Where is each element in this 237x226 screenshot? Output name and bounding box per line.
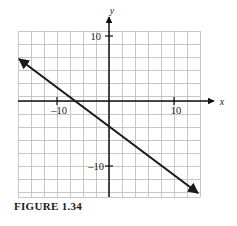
figure-caption: FIGURE 1.34 xyxy=(14,200,82,212)
y-tick-label-positive: 10 xyxy=(91,31,102,42)
coordinate-plot: 10 –10 –10 10 x y xyxy=(0,0,237,226)
x-tick-label-positive: 10 xyxy=(171,105,182,116)
x-axis-label: x xyxy=(219,96,225,107)
x-tick-label-negative: –10 xyxy=(50,105,67,116)
figure-container: 10 –10 –10 10 x y FIGURE 1.34 xyxy=(0,0,237,226)
y-axis-label: y xyxy=(109,5,115,16)
y-tick-label-negative: –10 xyxy=(87,161,104,172)
